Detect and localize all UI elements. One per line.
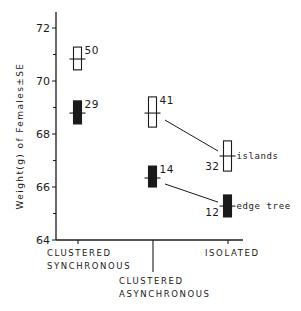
x-category-label: ISOLATED bbox=[205, 248, 260, 258]
x-category-label: SYNCHRONOUS bbox=[47, 261, 131, 271]
y-tick-label: 70 bbox=[36, 75, 50, 88]
se-box-open bbox=[149, 97, 157, 127]
data-markers: 504132 islands291412edge tree bbox=[70, 44, 291, 218]
y-tick-label: 64 bbox=[36, 234, 50, 247]
x-axis-categories: CLUSTEREDSYNCHRONOUSCLUSTEREDASYNCHRONOU… bbox=[47, 240, 260, 299]
data-point: 14 bbox=[145, 163, 174, 187]
x-category-label: CLUSTERED bbox=[119, 276, 184, 286]
sample-size-label: 32 bbox=[205, 160, 219, 172]
data-point: 29 bbox=[70, 98, 99, 124]
sample-size-label: 29 bbox=[85, 98, 99, 110]
x-category-label: ASYNCHRONOUS bbox=[119, 289, 211, 299]
y-tick-label: 66 bbox=[36, 181, 50, 194]
y-tick-label: 72 bbox=[36, 22, 50, 35]
connector-edge-tree bbox=[165, 184, 218, 202]
x-category-label: CLUSTERED bbox=[47, 248, 112, 258]
sample-size-label: 41 bbox=[160, 94, 174, 106]
data-point: 32 islands bbox=[205, 141, 279, 172]
series-annotation: edge tree bbox=[237, 201, 291, 211]
series-annotation: islands bbox=[237, 151, 279, 161]
chart: Weight(g) of Females±SE 6466687072 CLUST… bbox=[0, 0, 301, 311]
y-axis-ticks: 6466687072 bbox=[36, 22, 56, 247]
se-box-filled bbox=[149, 166, 157, 187]
y-axis-label: Weight(g) of Females±SE bbox=[15, 63, 25, 210]
sample-size-label: 12 bbox=[205, 206, 219, 218]
sample-size-label: 14 bbox=[160, 163, 174, 175]
sample-size-label: 50 bbox=[85, 44, 99, 56]
data-point: 12edge tree bbox=[205, 195, 291, 218]
connector-islands bbox=[165, 120, 218, 151]
se-box-filled bbox=[74, 101, 82, 124]
y-tick-label: 68 bbox=[36, 128, 50, 141]
data-point: 50 bbox=[70, 44, 99, 70]
